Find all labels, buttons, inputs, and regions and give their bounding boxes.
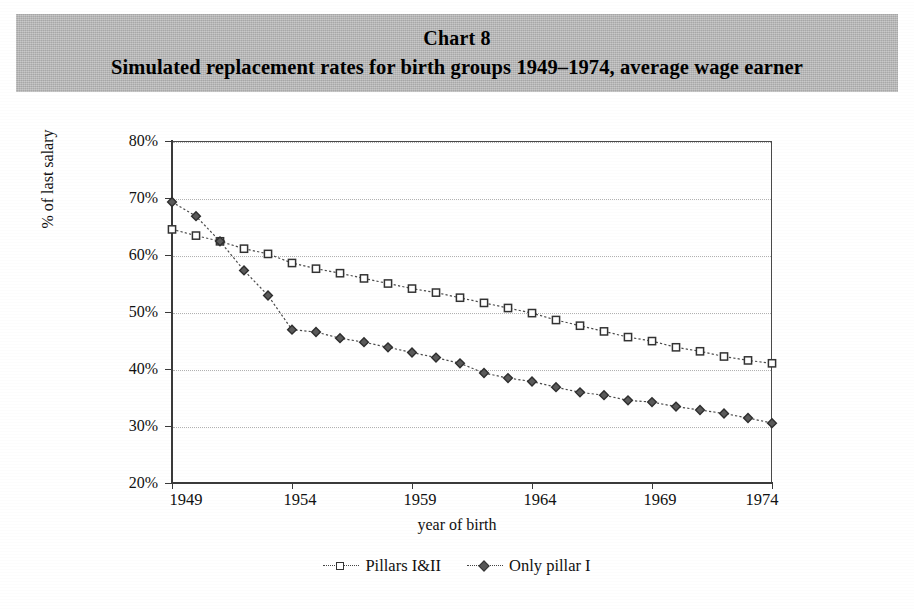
chart-legend: Pillars I&II Only pillar I (0, 556, 914, 576)
data-point (600, 328, 607, 335)
data-point (552, 316, 559, 323)
data-point (288, 325, 297, 334)
data-point (432, 289, 439, 296)
data-point (480, 369, 489, 378)
data-point (744, 414, 753, 423)
data-point (528, 310, 535, 317)
series-layer (0, 0, 914, 609)
data-point (312, 328, 321, 337)
data-point (264, 250, 271, 257)
data-point (504, 304, 511, 311)
data-point (768, 419, 777, 428)
data-point (648, 338, 655, 345)
data-point (360, 275, 367, 282)
data-point (192, 232, 199, 239)
legend-label-pillars-i-ii: Pillars I&II (365, 556, 441, 576)
legend-swatch-diamond (467, 561, 503, 571)
data-point (480, 299, 487, 306)
data-point (456, 294, 463, 301)
data-point (240, 245, 247, 252)
data-point (576, 322, 583, 329)
data-point (168, 198, 177, 207)
series-line-pillars-i-ii (172, 229, 772, 363)
data-point (240, 266, 249, 275)
data-point (384, 280, 391, 287)
data-point (360, 338, 369, 347)
data-point (456, 359, 465, 368)
data-point (312, 265, 319, 272)
data-point (288, 259, 295, 266)
data-point (744, 357, 751, 364)
data-point (504, 374, 513, 383)
data-point (720, 409, 729, 418)
data-point (768, 360, 775, 367)
data-point (648, 398, 657, 407)
data-point (168, 226, 175, 233)
data-point (672, 402, 681, 411)
data-point (576, 388, 585, 397)
data-point (384, 343, 393, 352)
data-point (408, 348, 417, 357)
legend-label-only-pillar-i: Only pillar I (509, 556, 591, 576)
data-point (624, 334, 631, 341)
data-point (432, 353, 441, 362)
data-point (552, 383, 561, 392)
data-point (624, 396, 633, 405)
data-point (696, 348, 703, 355)
chart-page: Chart 8 Simulated replacement rates for … (0, 0, 914, 609)
series-line-only-pillar-i (172, 202, 772, 423)
data-point (720, 353, 727, 360)
data-point (600, 391, 609, 400)
legend-item-pillars-i-ii[interactable]: Pillars I&II (323, 556, 441, 576)
data-point (264, 291, 273, 300)
data-point (696, 406, 705, 415)
legend-item-only-pillar-i[interactable]: Only pillar I (467, 556, 591, 576)
data-point (672, 344, 679, 351)
data-point (336, 270, 343, 277)
data-point (336, 334, 345, 343)
data-point (408, 285, 415, 292)
legend-swatch-square (323, 561, 359, 571)
data-point (528, 377, 537, 386)
